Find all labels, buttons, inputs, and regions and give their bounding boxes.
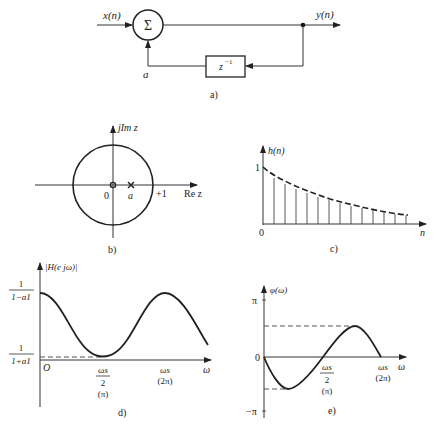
hn-tick-1: 1	[255, 162, 260, 173]
mag-tick2-alt: (2π)	[157, 376, 172, 386]
mag-tick2: ωs	[160, 365, 170, 375]
mag-tick1-num: ωs	[98, 365, 108, 375]
mag-max-den: 1−a1	[11, 292, 31, 302]
mag-min-num: 1	[19, 343, 24, 353]
hn-y-label: h(n)	[268, 145, 285, 157]
delay-label: z	[218, 61, 223, 72]
mag-y-label: |H(e jω)|	[45, 262, 78, 272]
phase-tick2-alt: (2π)	[375, 373, 390, 383]
panel-e-phase-response: φ(ω) π −π 0 ωs 2 (π) ωs (2π) ω e)	[246, 285, 406, 418]
mag-tick1-den: 2	[101, 378, 106, 388]
hn-x-label: n	[420, 227, 425, 238]
input-label: x(n)	[102, 9, 121, 22]
panel-a-block-diagram: x(n) Σ y(n) z −1 a a)	[97, 8, 340, 101]
feedback-gain-label: a	[143, 68, 149, 80]
caption-c: c)	[330, 243, 338, 255]
origin-label: 0	[104, 190, 109, 201]
mag-x-label: ω	[203, 364, 210, 375]
phase-x-label: ω	[398, 361, 405, 372]
delay-exponent: −1	[225, 58, 233, 66]
phase-y-label: φ(ω)	[270, 285, 287, 295]
panel-c-impulse-response: h(n) 1 0 n c)	[255, 145, 426, 255]
caption-a: a)	[210, 89, 218, 101]
phase-tick1-alt: (π)	[322, 386, 333, 396]
caption-d: d)	[118, 407, 126, 419]
real-axis-label: Re z	[184, 188, 203, 199]
figure: x(n) Σ y(n) z −1 a a) jIm z 0 a +1 Re z …	[0, 0, 436, 428]
mag-tick1-alt: (π)	[98, 389, 109, 399]
feedback-path-left	[148, 41, 206, 66]
phase-tick2: ωs	[378, 362, 388, 372]
phase-tick1-den: 2	[325, 375, 330, 385]
imag-axis-label: jIm z	[116, 122, 138, 133]
phase-pi: π	[252, 295, 257, 306]
mag-origin: O	[43, 362, 50, 373]
output-label: y(n)	[315, 8, 334, 21]
pole-label: a	[128, 190, 133, 201]
panel-b-pole-zero-plot: jIm z 0 a +1 Re z b)	[35, 122, 203, 256]
hn-origin: 0	[259, 227, 264, 238]
summer-symbol: Σ	[144, 18, 152, 33]
caption-b: b)	[108, 244, 116, 256]
mag-min-den: 1+a1	[11, 356, 31, 366]
mag-curve	[40, 293, 208, 357]
caption-e: e)	[328, 405, 336, 417]
unit-label: +1	[156, 188, 167, 199]
phase-origin: 0	[255, 352, 260, 363]
panel-d-magnitude-response: |H(e jω)| 1 1−a1 1 1+a1 O ωs 2 (π) ωs (2…	[9, 262, 211, 419]
feedback-path-right	[246, 25, 303, 66]
mag-max-num: 1	[19, 279, 24, 289]
phase-neg-pi: −π	[246, 406, 257, 417]
phase-tick1-num: ωs	[322, 362, 332, 372]
